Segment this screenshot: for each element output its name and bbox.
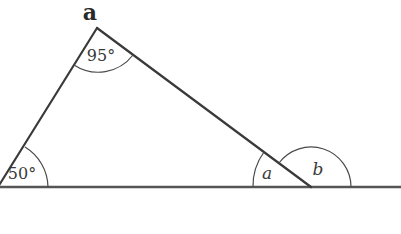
triangle-diagram: a 95° 50° a b xyxy=(0,0,401,234)
diagram-title: a xyxy=(83,0,97,25)
triangle-right-side xyxy=(97,28,311,187)
apex-angle-label: 95° xyxy=(87,46,115,65)
exterior-angle-label: b xyxy=(313,159,324,179)
left-angle-label: 50° xyxy=(8,164,36,183)
interior-angle-label: a xyxy=(262,163,272,183)
